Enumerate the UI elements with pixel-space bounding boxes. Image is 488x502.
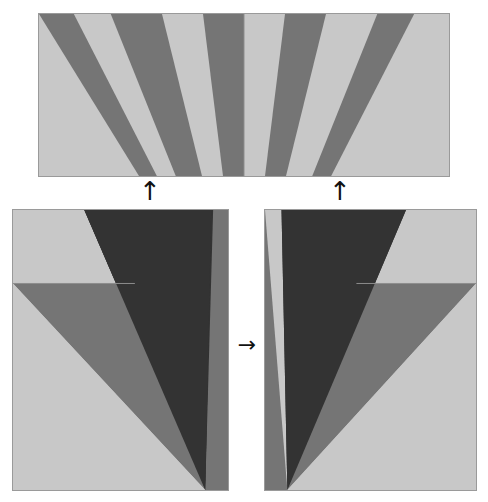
up-arrow-right-icon: ↑ <box>327 178 353 206</box>
right-arrow-icon: → <box>232 334 262 358</box>
bottom-left-canvas <box>13 210 228 490</box>
figure-root: ↑ ↑ → <box>0 0 488 502</box>
bottom-right-canvas <box>265 210 476 490</box>
bottom-left-source-panel <box>12 209 229 491</box>
br-mirror-group <box>265 210 476 490</box>
top-combined-fan-panel <box>38 13 450 177</box>
up-arrow-left-icon: ↑ <box>137 178 163 206</box>
bottom-right-mirrored-panel <box>264 209 477 491</box>
top-panel-canvas <box>39 14 449 176</box>
